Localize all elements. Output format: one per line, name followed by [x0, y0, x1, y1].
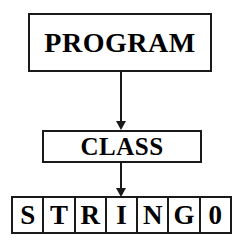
node-program[interactable]: PROGRAM: [28, 13, 212, 72]
string-cell-char: R: [80, 202, 100, 229]
string-cell-char: I: [116, 202, 127, 229]
arrow-shaft: [120, 72, 122, 121]
string-cell[interactable]: I: [107, 198, 138, 232]
node-class[interactable]: CLASS: [42, 130, 202, 163]
string-cell-char: 0: [209, 202, 223, 229]
node-class-label: CLASS: [80, 134, 163, 159]
arrow-shaft: [120, 163, 122, 188]
string-cell[interactable]: N: [138, 198, 169, 232]
string-cell-char: N: [143, 202, 163, 229]
arrow-head-icon: [116, 121, 126, 130]
arrow-program-to-class: [114, 72, 128, 130]
string-cell[interactable]: 0: [201, 198, 230, 232]
string-cell-char: S: [20, 202, 35, 229]
string-cell-char: G: [174, 202, 195, 229]
node-string-cell-array[interactable]: S T R I N G 0: [11, 196, 232, 234]
string-cell[interactable]: T: [44, 198, 75, 232]
string-cell[interactable]: S: [13, 198, 44, 232]
string-cell-char: T: [50, 202, 68, 229]
diagram-canvas: PROGRAM CLASS S T R I N G 0: [0, 0, 247, 242]
node-program-label: PROGRAM: [44, 29, 195, 57]
arrow-class-to-string: [114, 163, 128, 197]
string-cell[interactable]: R: [76, 198, 107, 232]
string-cell[interactable]: G: [169, 198, 200, 232]
